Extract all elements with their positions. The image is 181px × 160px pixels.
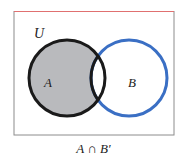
universe-label: U [34,27,44,41]
diagram-caption: A ∩ B′ [0,141,181,157]
venn-diagram [0,0,181,160]
set-b-label: B [128,76,136,89]
set-a-label: A [44,76,52,89]
